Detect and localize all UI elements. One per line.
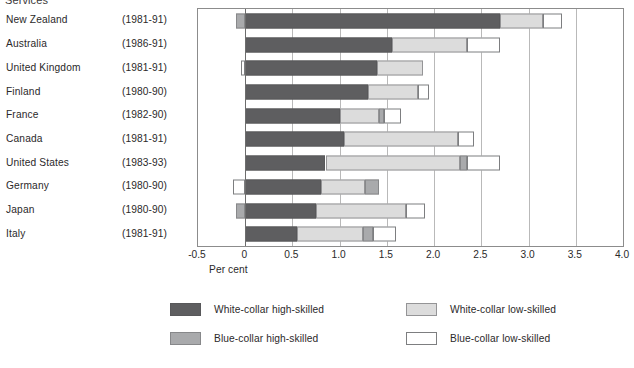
bar-segment-bl: [233, 179, 245, 194]
bar-segment-wh: [245, 85, 368, 100]
x-tick-label: 2.0: [426, 249, 440, 260]
bar-segment-wh: [245, 61, 377, 76]
legend-item-bh[interactable]: Blue-collar high-skilled: [170, 332, 318, 345]
bar-row: [198, 104, 623, 128]
services-employment-growth-chart: Services New Zealand(1981-91)Australia(1…: [0, 0, 634, 368]
bar-segment-wh: [245, 108, 339, 123]
country-name: Italy: [6, 228, 25, 239]
country-name: New Zealand: [6, 14, 68, 25]
period-range: (1981-91): [122, 133, 167, 144]
legend-swatch-bh: [170, 332, 201, 345]
bar-segment-wh: [245, 13, 500, 28]
bar-segment-wl: [316, 203, 406, 218]
category-label-row: Japan(1980-90): [0, 198, 197, 222]
bar-segment-wh: [245, 37, 391, 52]
bar-segment-bl: [373, 227, 397, 242]
bar-segment-bl: [458, 132, 474, 147]
legend-item-bl[interactable]: Blue-collar low-skilled: [406, 332, 550, 345]
bar-segment-wl: [340, 108, 380, 123]
country-name: Germany: [6, 180, 49, 191]
country-name: Australia: [6, 38, 47, 49]
bar-segment-bh: [236, 203, 245, 218]
bar-segment-wl: [321, 179, 365, 194]
country-name: United Kingdom: [6, 62, 81, 73]
x-tick-label: 3.0: [520, 249, 534, 260]
period-range: (1980-90): [122, 180, 167, 191]
bar-segment-bh: [363, 227, 372, 242]
bar-segment-wh: [245, 132, 344, 147]
category-label-row: Germany(1980-90): [0, 174, 197, 198]
bar-segment-bh: [236, 13, 245, 28]
legend-label: Blue-collar high-skilled: [214, 333, 318, 344]
legend-swatch-wh: [170, 303, 201, 316]
bar-row: [198, 33, 623, 57]
chart-title: Services: [5, 0, 48, 6]
bar-segment-bl: [467, 37, 500, 52]
period-range: (1981-91): [122, 228, 167, 239]
bar-segment-bh: [460, 156, 468, 171]
legend-swatch-bl: [406, 332, 437, 345]
country-name: Finland: [6, 86, 40, 97]
plot-area: [197, 8, 624, 247]
bar-segment-wh: [245, 203, 316, 218]
zero-axis-line: [245, 9, 246, 246]
bar-segment-bl: [384, 108, 401, 123]
category-label-row: Italy(1981-91): [0, 221, 197, 245]
bar-segment-bl: [543, 13, 562, 28]
bar-segment-wh: [245, 179, 321, 194]
x-tick-label: 0.5: [284, 249, 298, 260]
country-name: Canada: [6, 133, 43, 144]
category-label-row: United States(1983-93): [0, 150, 197, 174]
legend-label: White-collar high-skilled: [214, 304, 324, 315]
bar-row: [198, 80, 623, 104]
category-label-row: New Zealand(1981-91): [0, 8, 197, 32]
bar-row: [198, 199, 623, 223]
x-tick-label: 0: [241, 249, 247, 260]
bar-segment-wl: [392, 37, 468, 52]
x-tick-label: 3.5: [568, 249, 582, 260]
bar-segment-wl: [297, 227, 363, 242]
period-range: (1983-93): [122, 157, 167, 168]
bar-segment-bl: [467, 156, 500, 171]
bar-segment-wl: [377, 61, 422, 76]
bar-segment-wl: [344, 132, 457, 147]
bar-segment-wh: [245, 227, 297, 242]
bar-row: [198, 151, 623, 175]
x-tick-label: 1.5: [379, 249, 393, 260]
bar-segment-bl: [406, 203, 425, 218]
bar-segment-wl: [326, 156, 460, 171]
period-range: (1982-90): [122, 109, 167, 120]
country-name: United States: [6, 157, 69, 168]
bar-segment-wl: [368, 85, 418, 100]
period-range: (1981-91): [122, 62, 167, 73]
bar-segment-wl: [500, 13, 543, 28]
x-tick-label: 4.0: [615, 249, 629, 260]
category-label-row: Canada(1981-91): [0, 127, 197, 151]
x-tick-label: 2.5: [473, 249, 487, 260]
category-label-row: France(1982-90): [0, 103, 197, 127]
legend-item-wl[interactable]: White-collar low-skilled: [406, 303, 556, 316]
bar-row: [198, 128, 623, 152]
legend-label: Blue-collar low-skilled: [450, 333, 550, 344]
category-label-column: New Zealand(1981-91)Australia(1986-91)Un…: [0, 8, 197, 247]
country-name: Japan: [6, 204, 35, 215]
category-label-row: Australia(1986-91): [0, 32, 197, 56]
bar-row: [198, 9, 623, 33]
period-range: (1981-91): [122, 14, 167, 25]
chart-legend: White-collar high-skilledWhite-collar lo…: [170, 303, 600, 361]
legend-item-wh[interactable]: White-collar high-skilled: [170, 303, 324, 316]
bar-segment-bl: [418, 85, 429, 100]
bar-row: [198, 56, 623, 80]
period-range: (1986-91): [122, 38, 167, 49]
category-label-row: Finland(1980-90): [0, 79, 197, 103]
x-axis-title: Per cent: [209, 264, 248, 275]
country-name: France: [6, 109, 39, 120]
legend-label: White-collar low-skilled: [450, 304, 556, 315]
x-axis-tick-labels: -0.500.51.01.52.02.53.03.54.0: [197, 249, 624, 263]
x-tick-label: 1.0: [332, 249, 346, 260]
period-range: (1980-90): [122, 86, 167, 97]
bar-segment-wh: [245, 156, 325, 171]
bar-segment-bh: [365, 179, 379, 194]
bar-row: [198, 175, 623, 199]
period-range: (1980-90): [122, 204, 167, 215]
